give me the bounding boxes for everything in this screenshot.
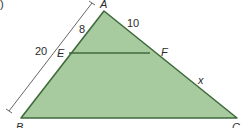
vertex-label-e: E bbox=[57, 47, 65, 59]
dimension-tick-top bbox=[89, 1, 95, 5]
vertex-label-b: B bbox=[16, 121, 23, 128]
vertex-label-f: F bbox=[161, 46, 169, 58]
measure-ab: 20 bbox=[35, 45, 47, 57]
triangle-diagram: ) A E F B C 8 10 20 x bbox=[0, 0, 242, 128]
vertex-label-a: A bbox=[99, 0, 107, 10]
measure-ae: 8 bbox=[79, 23, 85, 35]
measure-fc: x bbox=[197, 74, 204, 86]
vertex-label-c: C bbox=[232, 121, 240, 128]
dimension-tick-bottom bbox=[6, 109, 12, 113]
part-label: ) bbox=[0, 0, 4, 10]
measure-af: 10 bbox=[127, 17, 139, 29]
